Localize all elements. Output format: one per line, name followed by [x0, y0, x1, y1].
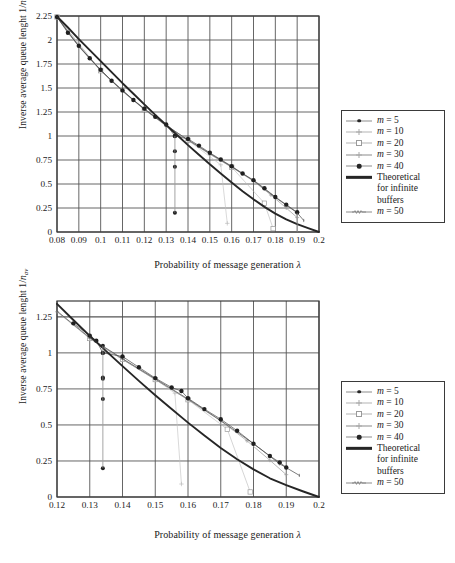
chart-bottom-x-axis-title: Probability of message generation λ [0, 529, 455, 540]
x-tick-label-3: 0.11 [115, 235, 131, 245]
chart-bottom-legend-item-6: m = 50 [346, 477, 439, 488]
chart-bottom-legend-label-5: Theoreticalfor infinitebuffers [377, 443, 420, 477]
y-tick-label-2: 0.5 [41, 179, 53, 189]
y-tick-label-9: 2.25 [36, 11, 52, 21]
x-tick-label-11: 0.19 [289, 235, 305, 245]
x-tick-label-5: 0.13 [158, 235, 174, 245]
x-tick-label-6: 0.14 [180, 235, 196, 245]
chart-bottom: 0.120.130.140.150.160.170.180.190.200.25… [0, 281, 455, 563]
chart-bottom-legend-label-0: m = 5 [377, 386, 399, 397]
chart-top-legend-label-6: m = 50 [377, 206, 403, 217]
x-tick-label-1: 0.09 [71, 235, 87, 245]
marker-circle-icon [357, 164, 362, 169]
marker-circle-icon [357, 119, 361, 123]
series-m-40 [55, 15, 300, 215]
chart-bottom-legend-swatch-2 [346, 409, 372, 420]
y-tick-label-4: 1 [47, 348, 52, 358]
x-tick-label-2: 0.1 [95, 235, 107, 245]
chart-bottom-legend-label-2: m = 20 [377, 409, 403, 420]
chart-top-legend-label-0: m = 5 [377, 115, 399, 126]
chart-bottom-legend-swatch-6 [346, 477, 372, 488]
y-tick-label-0: 0 [47, 227, 52, 237]
x-tick-label-7: 0.15 [202, 235, 218, 245]
x-tick-label-8: 0.16 [224, 235, 240, 245]
chart-bottom-y-axis-title: Inverse average queue lenght 1/nav [18, 269, 29, 404]
x-tick-label-10: 0.18 [267, 235, 283, 245]
chart-top-legend-swatch-6 [346, 206, 372, 217]
grid-lines [57, 16, 319, 232]
marker-circle-icon [357, 390, 361, 394]
chart-top-legend-item-2: m = 20 [346, 138, 439, 149]
marker-square-icon [356, 140, 362, 146]
chart-bottom-legend-item-4: m = 40 [346, 432, 439, 443]
chart-top-legend-swatch-5 [346, 172, 372, 183]
x-tick-label-12: 0.2 [313, 235, 325, 245]
x-tick-label-8: 0.2 [313, 500, 325, 510]
chart-top-legend-item-4: m = 40 [346, 161, 439, 172]
y-axis-title-text: Inverse average queue lenght 1/nav [18, 269, 28, 404]
marker-plus-icon [356, 400, 362, 406]
x-tick-label-5: 0.17 [213, 500, 229, 510]
x-tick-label-2: 0.14 [114, 500, 130, 510]
marker-circle-icon [357, 435, 362, 440]
y-tick-label-7: 1.75 [36, 59, 52, 69]
chart-bottom-legend-item-0: m = 5 [346, 386, 439, 397]
x-tick-label-6: 0.18 [245, 500, 261, 510]
x-axis-title-text: Probability of message generation λ [154, 529, 301, 540]
x-tick-label-1: 0.13 [82, 500, 98, 510]
x-tick-label-4: 0.12 [136, 235, 152, 245]
chart-top-legend-item-5: Theoreticalfor infinitebuffers [346, 172, 439, 206]
chart-bottom-legend-swatch-1 [346, 398, 372, 409]
chart-top-legend: m = 5m = 10m = 20m = 30m = 40Theoretical… [341, 110, 445, 223]
chart-top-x-axis-title: Probability of message generation λ [0, 259, 455, 270]
chart-bottom-legend-item-1: m = 10 [346, 397, 439, 408]
chart-top-legend-item-0: m = 5 [346, 115, 439, 126]
chart-top-legend-swatch-1 [346, 127, 372, 138]
chart-top-legend-label-4: m = 40 [377, 161, 403, 172]
chart-bottom-legend-item-3: m = 30 [346, 420, 439, 431]
y-tick-label-0: 0 [47, 492, 52, 502]
y-tick-label-1: 0.25 [36, 456, 52, 466]
chart-bottom-legend: m = 5m = 10m = 20m = 30m = 40Theoretical… [341, 381, 445, 494]
y-tick-label-8: 2 [47, 35, 52, 45]
chart-top-legend-swatch-3 [346, 149, 372, 160]
y-axis-title-text: Inverse average queue lenght 1/nav [18, 0, 28, 129]
marker-plus-icon [356, 152, 362, 158]
chart-top-legend-swatch-2 [346, 138, 372, 149]
y-tick-label-5: 1.25 [36, 107, 52, 117]
marker-zigzag-icon [352, 481, 366, 485]
chart-top-legend-label-5: Theoreticalfor infinitebuffers [377, 172, 420, 206]
marker-plus-icon [356, 423, 362, 429]
series-m-20 [88, 336, 253, 494]
chart-top-legend-swatch-4 [346, 161, 372, 172]
chart-bottom-legend-label-1: m = 10 [377, 397, 403, 408]
y-tick-label-2: 0.5 [41, 420, 53, 430]
x-tick-label-9: 0.17 [245, 235, 261, 245]
marker-square-icon [356, 411, 362, 417]
y-tick-label-3: 0.75 [36, 155, 52, 165]
chart-bottom-legend-label-4: m = 40 [377, 432, 403, 443]
y-tick-label-3: 0.75 [36, 384, 52, 394]
x-tick-label-7: 0.19 [278, 500, 294, 510]
chart-top-legend-swatch-0 [346, 115, 372, 126]
chart-bottom-legend-swatch-3 [346, 420, 372, 431]
series-m-50 [57, 15, 304, 222]
x-axis-title-text: Probability of message generation λ [154, 259, 301, 270]
x-tick-label-4: 0.16 [180, 500, 196, 510]
axis-tick-labels: 0.120.130.140.150.160.170.180.190.200.25… [36, 312, 325, 510]
y-tick-label-4: 1 [47, 131, 52, 141]
chart-bottom-legend-item-2: m = 20 [346, 409, 439, 420]
chart-bottom-legend-swatch-0 [346, 386, 372, 397]
figure-root: 0.080.090.10.110.120.130.140.150.160.170… [0, 0, 455, 563]
marker-plus-icon [356, 129, 362, 135]
series-m-40 [71, 321, 288, 470]
y-tick-label-1: 0.25 [36, 203, 52, 213]
series-m-50 [57, 309, 299, 476]
chart-top-legend-item-1: m = 10 [346, 126, 439, 137]
chart-top-legend-label-2: m = 20 [377, 138, 403, 149]
chart-bottom-legend-swatch-4 [346, 432, 372, 443]
chart-top-y-axis-title: Inverse average queue lenght 1/nav [18, 0, 29, 129]
chart-top-legend-label-3: m = 30 [377, 149, 403, 160]
series-m-10 [88, 336, 184, 486]
y-tick-label-6: 1.5 [41, 83, 53, 93]
